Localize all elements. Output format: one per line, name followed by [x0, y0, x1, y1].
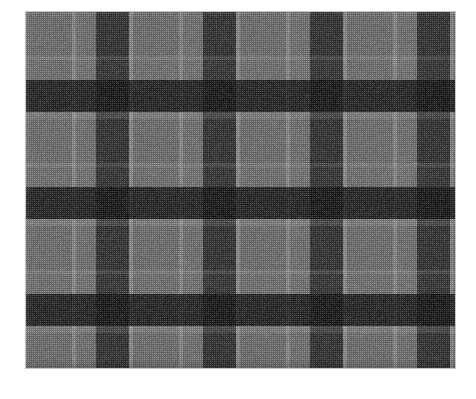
weft-stripe-ground-light	[26, 119, 455, 163]
weft-stripe-pale-edge	[26, 326, 455, 333]
image-canvas	[0, 0, 476, 399]
weft-stripe-ground-light-2	[26, 274, 455, 294]
fabric-swatch	[26, 12, 455, 368]
weft-stripe-layer	[26, 12, 455, 368]
weft-stripe-pale-edge	[26, 219, 455, 226]
weft-stripe-dark-bar	[26, 187, 455, 219]
weft-stripe-ground-light-2	[26, 167, 455, 187]
weft-stripe-ground-light	[26, 333, 455, 368]
weft-stripe-ground-light	[26, 226, 455, 270]
weft-stripe-ground-light	[26, 12, 455, 56]
weft-stripe-dark-bar	[26, 294, 455, 326]
weft-stripe-pale-edge	[26, 112, 455, 119]
weft-stripe-dark-bar	[26, 80, 455, 112]
weft-stripe-ground-light-2	[26, 60, 455, 80]
